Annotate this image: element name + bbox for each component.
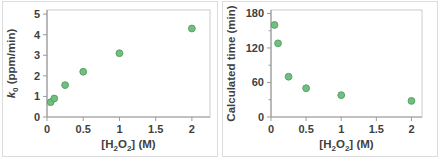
x-tick-label: 1 bbox=[116, 123, 122, 135]
data-point bbox=[408, 97, 415, 104]
data-point bbox=[62, 82, 69, 89]
x-tick-label: 1 bbox=[338, 123, 344, 135]
data-point bbox=[285, 73, 292, 80]
data-point bbox=[271, 22, 278, 29]
y-tick-label: 1 bbox=[34, 90, 40, 102]
x-tick-label: 2 bbox=[408, 123, 414, 135]
y-tick-label: 3 bbox=[34, 49, 40, 61]
y-tick-label: 4 bbox=[34, 29, 41, 41]
two-panel-scatter-figure: 00.511.52012345[H2O2] (M)k0 (ppm/min) 00… bbox=[0, 0, 438, 158]
data-point bbox=[275, 40, 282, 47]
y-tick-label: 5 bbox=[34, 8, 40, 20]
y-tick-label: 180 bbox=[246, 7, 264, 19]
chart-k0-vs-h2o2: 00.511.52012345[H2O2] (M)k0 (ppm/min) bbox=[2, 1, 218, 157]
plot-area-border bbox=[47, 10, 210, 117]
x-tick-label: 2 bbox=[189, 123, 195, 135]
data-point bbox=[188, 25, 195, 32]
y-tick-label: 60 bbox=[252, 76, 264, 88]
x-tick-label: 1.5 bbox=[148, 123, 163, 135]
x-tick-label: 0.5 bbox=[76, 123, 91, 135]
x-axis-title: [H2O2] (M) bbox=[101, 138, 155, 153]
y-axis-title: Calculated time (min) bbox=[225, 5, 237, 121]
x-tick-label: 0 bbox=[268, 123, 274, 135]
x-tick-label: 0.5 bbox=[298, 123, 313, 135]
data-point bbox=[51, 95, 58, 102]
data-point bbox=[80, 68, 87, 75]
chart-calculated-time-vs-h2o2: 00.511.52060120180[H2O2] (M)Calculated t… bbox=[222, 1, 438, 157]
x-tick-label: 0 bbox=[44, 123, 50, 135]
y-tick-label: 0 bbox=[34, 111, 40, 123]
data-point bbox=[303, 85, 310, 92]
y-tick-label: 120 bbox=[246, 42, 264, 54]
data-point bbox=[338, 92, 345, 99]
data-point bbox=[116, 50, 123, 57]
plot-area-border bbox=[271, 10, 422, 117]
y-tick-label: 2 bbox=[34, 70, 40, 82]
x-tick-label: 1.5 bbox=[369, 123, 384, 135]
y-tick-label: 0 bbox=[258, 111, 264, 123]
x-axis-title: [H2O2] (M) bbox=[319, 138, 373, 153]
y-axis-title: k0 (ppm/min) bbox=[5, 29, 20, 99]
